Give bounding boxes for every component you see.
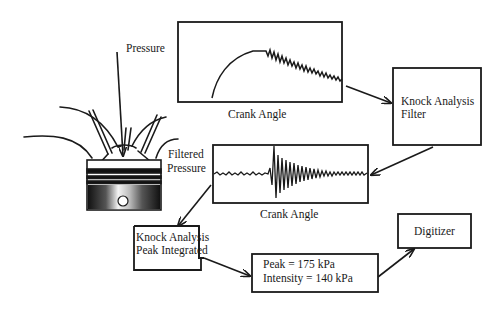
crank-angle-label-middle: Crank Angle xyxy=(260,208,318,221)
arrow-filter-to-filtered-plot xyxy=(371,147,433,175)
raw-pressure-plot xyxy=(178,22,342,102)
arrow-filtered-to-peak xyxy=(178,185,211,226)
filtered-pressure-plot xyxy=(213,145,368,203)
result-intensity-value: Intensity = 140 kPa xyxy=(263,272,353,285)
result-peak-value: Peak = 175 kPa xyxy=(263,258,335,271)
arrow-result-to-digitizer xyxy=(378,249,414,277)
filter-label-line1: Knock Analysis xyxy=(401,95,474,108)
peak-integrated-label-line2: Peak Integrated xyxy=(136,244,208,257)
knock-analysis-diagram: Pressure Crank Angle Knock Analysis Filt… xyxy=(0,0,504,311)
pressure-arrow xyxy=(117,52,123,156)
peak-integrated-label-line1: Knock Analysis xyxy=(136,231,209,244)
arrow-plot-to-filter xyxy=(346,86,391,103)
pressure-label: Pressure xyxy=(126,42,165,55)
filtered-pressure-label-line2: Pressure xyxy=(167,162,206,175)
arrow-peak-to-result xyxy=(204,258,250,276)
crank-angle-label-top: Crank Angle xyxy=(228,108,286,121)
filter-label-line2: Filter xyxy=(401,108,426,121)
digitizer-label: Digitizer xyxy=(414,225,455,238)
diagram-canvas xyxy=(0,0,504,311)
filtered-pressure-label-line1: Filtered xyxy=(168,148,204,161)
piston-icon xyxy=(24,107,178,210)
